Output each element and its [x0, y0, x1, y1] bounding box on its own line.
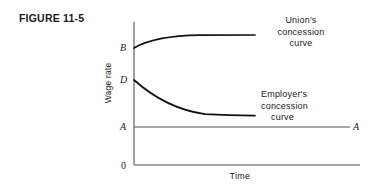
union-curve-annotation: Union's concession curve — [258, 15, 344, 50]
employer-concession-curve — [134, 80, 255, 116]
employer-annotation-line-1: Employer's — [261, 89, 347, 101]
union-annotation-line-1: Union's — [258, 15, 344, 27]
employer-annotation-line-2: concession — [261, 101, 347, 113]
employer-curve-annotation: Employer's concession curve — [261, 89, 347, 124]
figure-screenshot: FIGURE 11-5 B D A 0 A Wage rate Time Uni… — [0, 0, 376, 186]
y-axis-label: Wage rate — [103, 53, 113, 113]
employer-annotation-line-3: curve — [261, 112, 347, 124]
reference-line-right-label-a: A — [353, 121, 359, 132]
union-annotation-line-3: curve — [258, 38, 344, 50]
union-concession-curve — [134, 35, 255, 48]
x-axis-label: Time — [200, 171, 280, 181]
union-annotation-line-2: concession — [258, 27, 344, 39]
y-tick-label-a: A — [120, 121, 126, 132]
y-tick-label-b: B — [120, 42, 126, 53]
origin-label: 0 — [121, 160, 126, 171]
y-tick-label-d: D — [120, 74, 127, 85]
